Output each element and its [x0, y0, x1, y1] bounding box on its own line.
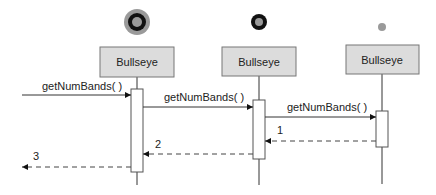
bullseye-large-icon: [124, 9, 150, 35]
object-label: Bullseye: [238, 56, 280, 68]
return-1: 1: [265, 124, 376, 141]
activation-bar: [131, 89, 143, 172]
object-label: Bullseye: [361, 54, 403, 66]
message-3: getNumBands( ): [265, 101, 376, 117]
return-label: 3: [33, 150, 39, 162]
sequence-diagram: Bullseye Bullseye Bullseye getNumBands( …: [0, 0, 436, 195]
return-3: 3: [22, 150, 131, 167]
message-label: getNumBands( ): [164, 91, 244, 103]
message-label: getNumBands( ): [287, 101, 367, 113]
activation-bar: [253, 100, 265, 159]
message-label: getNumBands( ): [42, 80, 122, 92]
return-label: 2: [155, 138, 161, 150]
return-label: 1: [277, 124, 283, 136]
bullseye-medium-icon: [251, 14, 267, 30]
bullseye-small-icon: [378, 23, 386, 31]
lifeline-1: Bullseye: [100, 9, 174, 185]
activation-bar: [376, 111, 388, 147]
return-2: 2: [143, 138, 253, 154]
message-1: getNumBands( ): [22, 80, 131, 95]
message-2: getNumBands( ): [143, 91, 253, 107]
object-label: Bullseye: [116, 56, 158, 68]
